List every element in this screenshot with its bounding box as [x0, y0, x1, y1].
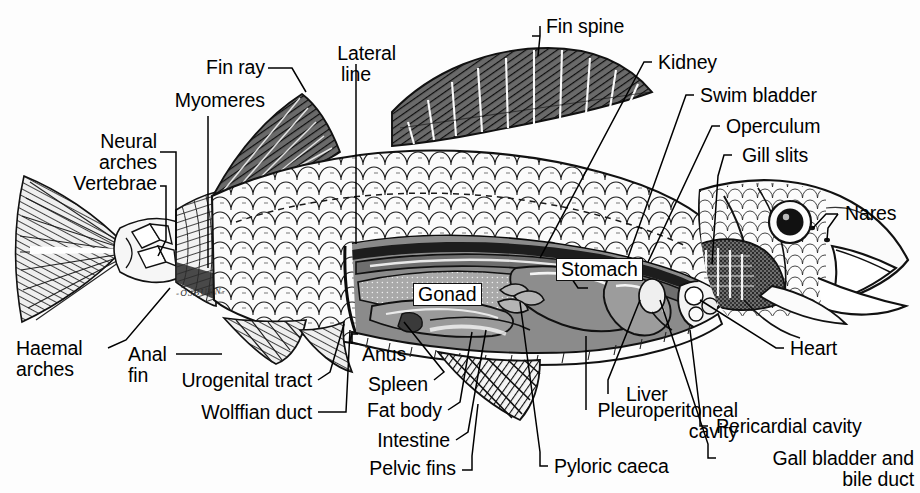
label-fin-ray: Fin ray	[100, 57, 265, 78]
label-pelvic-fins: Pelvic fins	[306, 458, 456, 479]
label-vertebrae: Vertebrae	[20, 173, 157, 194]
label-heart: Heart	[790, 338, 837, 359]
label-liver: Liver	[626, 384, 668, 405]
label-stomach: Stomach	[556, 258, 643, 281]
label-neural-arches: Neural arches	[20, 131, 157, 173]
label-myomeres: Myomeres	[60, 90, 265, 111]
eye	[769, 201, 811, 243]
label-gonad: Gonad	[413, 283, 482, 306]
label-gall-bladder-bile-duct: Gall bladder and bile duct	[650, 448, 914, 490]
label-haemal-arches: Haemal arches	[16, 338, 83, 380]
label-fat-body: Fat body	[306, 400, 442, 421]
label-urogenital-tract: Urogenital tract	[130, 370, 312, 391]
label-intestine: Intestine	[306, 430, 450, 451]
fish-anatomy-figure: Lateral line Fin ray Myomeres Neural arc…	[0, 0, 920, 493]
label-swim-bladder: Swim bladder	[700, 85, 817, 106]
label-nares: Nares	[845, 203, 897, 224]
label-pleuroperitoneal-cavity: Pleuroperitoneal cavity	[448, 400, 738, 442]
label-anus: Anus	[362, 344, 406, 365]
label-spleen: Spleen	[306, 374, 428, 395]
label-lateral-line: Lateral line	[306, 22, 406, 106]
label-operculum: Operculum	[726, 116, 820, 137]
label-pericardial-cavity: Pericardial cavity	[716, 416, 862, 437]
label-wolffian-duct: Wolffian duct	[130, 402, 312, 423]
label-gill-slits: Gill slits	[742, 145, 808, 166]
gall-bladder-organ	[639, 279, 665, 313]
label-kidney: Kidney	[658, 52, 717, 73]
label-fin-spine: Fin spine	[546, 16, 624, 37]
